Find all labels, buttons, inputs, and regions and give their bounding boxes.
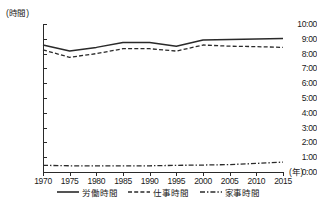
legend-item: 家事時間: [200, 186, 260, 198]
legend-item: 労働時間: [57, 186, 117, 198]
chart-legend: 労働時間仕事時間家事時間: [0, 186, 317, 198]
chart-series-canvas: [0, 0, 317, 202]
line-chart-figure: (時間) (年) 0:001:002:003:004:005:006:007:0…: [0, 0, 317, 202]
series-line: [43, 45, 283, 57]
series-line: [43, 39, 283, 52]
legend-line-swatch: [57, 188, 79, 196]
legend-label: 労働時間: [82, 186, 117, 198]
legend-label: 仕事時間: [153, 186, 188, 198]
legend-line-swatch: [200, 188, 222, 196]
series-line: [43, 162, 283, 166]
legend-item: 仕事時間: [128, 186, 188, 198]
legend-label: 家事時間: [225, 186, 260, 198]
legend-line-swatch: [128, 188, 150, 196]
